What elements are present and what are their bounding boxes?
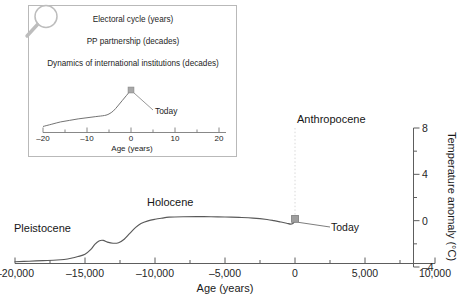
x-tick-label: –5,000 xyxy=(209,267,241,279)
inset-today-leader-line xyxy=(134,93,153,110)
today-label: Today xyxy=(331,221,359,233)
anthropocene-label: Anthropocene xyxy=(297,113,366,125)
inset-x-tick-label: –10 xyxy=(80,134,93,143)
inset-x-tick-label: 10 xyxy=(171,134,180,143)
inset-recent-anomaly-curve xyxy=(43,90,131,126)
x-tick-label: 5,000 xyxy=(352,267,378,279)
x-tick-label: –10,000 xyxy=(136,267,174,279)
y-axis-title: Temperature anomaly (°C) xyxy=(446,132,458,261)
x-tick-label: –15,000 xyxy=(66,267,104,279)
y-tick-label: 4 xyxy=(422,168,428,180)
pleistocene-label: Pleistocene xyxy=(14,222,71,234)
inset-today-label: Today xyxy=(155,106,177,116)
x-axis-title: Age (years) xyxy=(197,282,254,294)
figure-root: –20,000–15,000–10,000–5,00005,00010,000 … xyxy=(0,0,474,308)
inset-x-axis-ticks xyxy=(43,128,219,133)
y-tick-label: 0 xyxy=(422,215,428,227)
y-tick-label: –4 xyxy=(422,261,434,273)
x-tick-label: 0 xyxy=(292,267,298,279)
inset-x-tick-label: 0 xyxy=(129,134,133,143)
inset-x-tick-label: –20 xyxy=(36,134,49,143)
y-axis-ticks xyxy=(414,128,420,267)
y-tick-label: 8 xyxy=(422,122,428,134)
holocene-label: Holocene xyxy=(147,196,193,208)
today-marker xyxy=(292,216,299,223)
x-axis-ticks xyxy=(15,258,435,264)
magnifier-icon xyxy=(22,2,66,44)
today-leader-line xyxy=(298,222,330,227)
inset-x-axis-title: Age (years) xyxy=(111,144,152,153)
inset-x-tick-label: 20 xyxy=(215,134,224,143)
inset-today-marker xyxy=(128,87,134,93)
x-tick-label: –20,000 xyxy=(0,267,34,279)
